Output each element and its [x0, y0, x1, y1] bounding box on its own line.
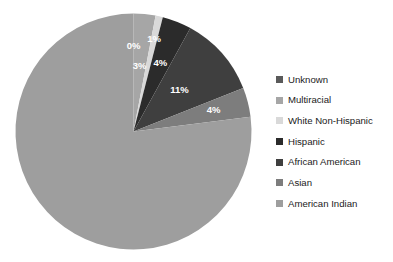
chart-legend: Unknown Multiracial White Non-Hispanic H…: [276, 69, 393, 214]
legend-item-african-american[interactable]: African American: [276, 152, 393, 173]
pie-slice-value-label: 1%: [147, 33, 161, 44]
legend-label: White Non-Hispanic: [288, 116, 373, 126]
legend-swatch-icon: [276, 97, 283, 104]
legend-label: African American: [288, 157, 361, 167]
legend-item-american-indian[interactable]: American Indian: [276, 193, 393, 214]
legend-swatch-icon: [276, 138, 283, 145]
legend-swatch-icon: [276, 76, 283, 83]
legend-item-white-non-hispanic[interactable]: White Non-Hispanic: [276, 110, 393, 131]
pie-slice-value-label: 4%: [154, 57, 168, 68]
pie-chart-figure: 0%3%1%4%11%4% Unknown Multiracial White …: [0, 0, 393, 262]
legend-swatch-icon: [276, 179, 283, 186]
legend-swatch-icon: [276, 117, 283, 124]
legend-item-multiracial[interactable]: Multiracial: [276, 90, 393, 111]
legend-label: Hispanic: [288, 137, 325, 147]
legend-label: Unknown: [288, 75, 328, 85]
pie-slice-value-label: 11%: [170, 84, 189, 95]
legend-item-hispanic[interactable]: Hispanic: [276, 131, 393, 152]
pie-slice-value-label: 0%: [127, 40, 141, 51]
pie-slice-value-label: 3%: [133, 60, 147, 71]
legend-swatch-icon: [276, 200, 283, 207]
legend-item-asian[interactable]: Asian: [276, 172, 393, 193]
legend-label: Asian: [288, 178, 312, 188]
legend-swatch-icon: [276, 159, 283, 166]
pie-chart-plot-area: 0%3%1%4%11%4%: [0, 0, 268, 262]
legend-item-unknown[interactable]: Unknown: [276, 69, 393, 90]
legend-label: American Indian: [288, 199, 357, 209]
pie-chart-svg: 0%3%1%4%11%4%: [0, 0, 268, 262]
legend-label: Multiracial: [288, 95, 331, 105]
pie-slice-value-label: 4%: [207, 104, 221, 115]
